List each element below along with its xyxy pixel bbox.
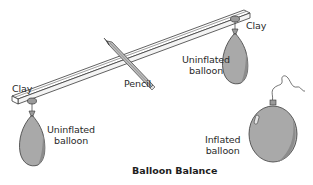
label-line: Uninflated — [47, 124, 95, 135]
label-line: balloon — [182, 65, 230, 76]
label-clay-right: Clay — [246, 20, 266, 31]
label-line: Inflated — [205, 134, 240, 145]
balloon-balance-diagram: Clay Uninflated balloon Pencil Uninflate… — [0, 0, 313, 185]
left-clay — [28, 98, 37, 104]
label-pencil: Pencil — [124, 78, 151, 89]
diagram-title: Balloon Balance — [132, 165, 217, 176]
label-line: balloon — [205, 145, 240, 156]
label-line: Uninflated — [182, 54, 230, 65]
label-line: balloon — [47, 135, 95, 146]
label-uninflated-balloon-right: Uninflated balloon — [182, 54, 230, 76]
inflated-balloon — [249, 76, 305, 162]
label-clay-left: Clay — [12, 83, 32, 94]
left-uninflated-balloon — [19, 104, 44, 166]
label-uninflated-balloon-left: Uninflated balloon — [47, 124, 95, 146]
label-inflated-balloon: Inflated balloon — [205, 134, 240, 156]
right-clay — [231, 16, 240, 22]
